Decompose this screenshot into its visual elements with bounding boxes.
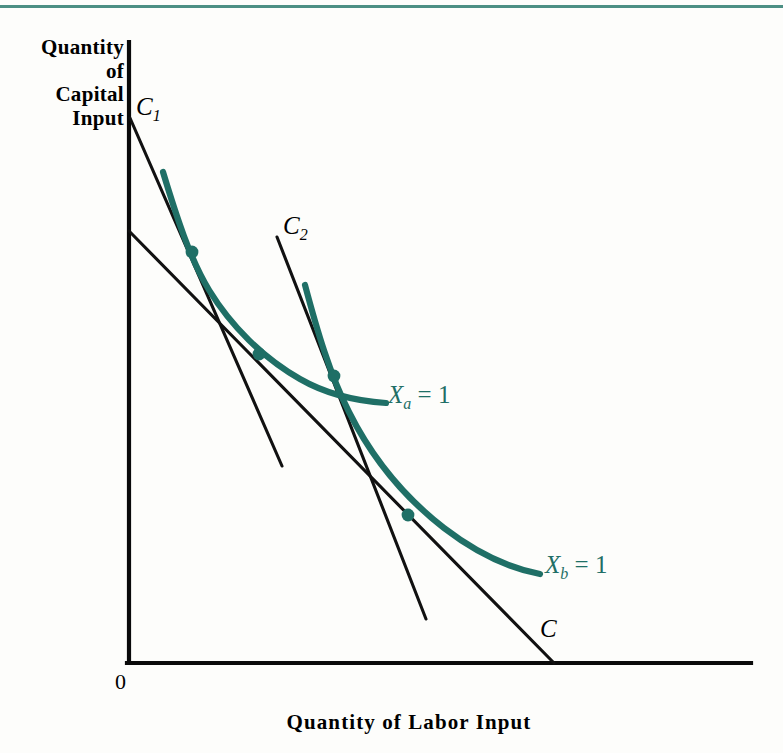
isoquant-curves-group	[163, 172, 540, 574]
figure-canvas: Quantity of Capital Input Quantity of La…	[0, 0, 783, 753]
isocost-label-c2: C2	[283, 212, 308, 244]
isocost-line-c	[129, 231, 554, 663]
isoquant-label-xb-rest: = 1	[568, 551, 607, 578]
axes-group	[127, 42, 751, 663]
y-axis-title-line-2: of	[16, 60, 124, 84]
tangency-dot	[186, 246, 199, 259]
tangency-dot	[328, 370, 341, 383]
isocost-label-c1: C1	[136, 93, 161, 125]
y-axis-title-line-4: Input	[16, 107, 124, 131]
isocost-label-c: C	[540, 615, 557, 643]
isocost-line-c2	[277, 237, 426, 619]
isocost-label-c1-base: C	[136, 93, 153, 120]
isoquant-label-xb: Xb = 1	[545, 551, 607, 583]
tangency-dots-group	[186, 246, 415, 522]
isocost-label-c-base: C	[540, 615, 557, 642]
tangency-dot	[253, 348, 266, 361]
y-axis-title-line-3: Capital	[16, 83, 124, 107]
isocost-label-c2-sub: 2	[300, 226, 308, 243]
isoquant-curve-xa	[163, 172, 386, 403]
tangency-dot	[402, 509, 415, 522]
isocost-label-c1-sub: 1	[153, 107, 161, 124]
x-axis-title: Quantity of Labor Input	[229, 711, 589, 735]
isocost-label-c2-base: C	[283, 212, 300, 239]
y-axis-title-line-1: Quantity	[16, 36, 124, 60]
isoquant-label-xa-base: X	[388, 381, 403, 408]
origin-label: 0	[115, 669, 126, 695]
isoquant-label-xa-rest: = 1	[411, 381, 450, 408]
isoquant-label-xb-base: X	[545, 551, 560, 578]
y-axis-title: Quantity of Capital Input	[16, 36, 124, 130]
isoquant-label-xa: Xa = 1	[388, 381, 450, 413]
isocost-line-c1	[130, 118, 282, 466]
